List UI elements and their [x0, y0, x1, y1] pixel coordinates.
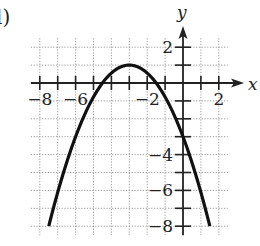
y-tick-label: 2	[162, 37, 173, 57]
x-tick-label: −6	[63, 89, 88, 109]
y-tick-label: −8	[148, 216, 173, 236]
parabola-graph: l) −8−6−222−4−6−8 x y	[0, 0, 260, 246]
problem-label: l)	[0, 5, 10, 29]
y-tick-label: −4	[148, 145, 173, 165]
y-tick-label: −6	[148, 180, 173, 200]
x-tick-label: 2	[213, 89, 224, 109]
axes	[31, 26, 244, 235]
x-tick-label: −8	[27, 89, 52, 109]
x-tick-label: −2	[135, 89, 160, 109]
x-axis-label: x	[248, 74, 258, 94]
grid-lines	[31, 38, 228, 235]
y-axis-label: y	[176, 2, 187, 22]
